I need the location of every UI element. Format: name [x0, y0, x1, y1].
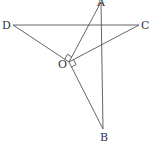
- geometry-diagram: A D C O B: [0, 0, 152, 150]
- label-b: B: [100, 131, 108, 144]
- label-d: D: [2, 19, 11, 32]
- segment-od: [13, 25, 69, 62]
- label-c: C: [141, 19, 149, 32]
- segment-ab: [101, 2, 103, 129]
- segment-ob: [69, 62, 103, 129]
- segment-oa: [69, 2, 101, 62]
- label-a: A: [96, 0, 106, 9]
- segment-oc: [69, 25, 139, 62]
- label-o: O: [58, 58, 67, 71]
